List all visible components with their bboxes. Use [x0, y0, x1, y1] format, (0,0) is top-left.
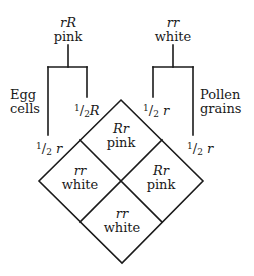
- cell-right: Rr pink: [141, 164, 181, 192]
- gamete-left-outer: 1/2 r: [36, 139, 62, 159]
- cell-top: Rr pink: [101, 122, 141, 150]
- gamete-left-inner: 1/2R: [74, 101, 100, 121]
- cell-bottom: rr white: [100, 207, 144, 235]
- egg-cells-label: Egg cells: [10, 88, 44, 116]
- left-parent-phenotype: pink: [48, 30, 88, 44]
- pollen-grains-label: Pollen grains: [200, 88, 252, 116]
- left-parent-genotype: rR: [48, 16, 88, 30]
- left-parent-label: rR pink: [48, 16, 88, 44]
- cell-left: rr white: [58, 164, 102, 192]
- gamete-right-outer: 1/2 r: [187, 139, 213, 159]
- right-parent-genotype: rr: [150, 16, 196, 30]
- right-parent-phenotype: white: [150, 30, 196, 44]
- gamete-right-inner: 1/2 r: [143, 101, 169, 121]
- right-parent-label: rr white: [150, 16, 196, 44]
- punnett-diagram: rR pink rr white Egg cells Pollen grains…: [0, 0, 254, 276]
